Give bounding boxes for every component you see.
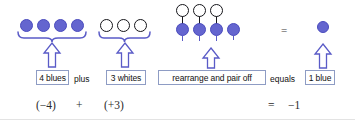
label-box-whites: 3 whites xyxy=(106,70,146,85)
white-counter xyxy=(193,4,206,17)
math-term-result: −1 xyxy=(288,99,300,111)
math-term-whites: (+3) xyxy=(104,99,124,111)
math-plus-symbol: + xyxy=(76,99,83,111)
counter-tail xyxy=(233,35,234,40)
arrow-result xyxy=(312,43,334,69)
math-term-blues: (−4) xyxy=(36,99,56,111)
figure-canvas: 4 blues plus 3 whites xyxy=(0,0,355,126)
white-counter xyxy=(176,4,189,17)
arrow-mixed xyxy=(200,47,222,69)
counter-tail xyxy=(216,35,217,41)
plus-word: plus xyxy=(74,74,90,84)
label-box-rearrange: rearrange and pair off xyxy=(158,70,266,85)
counter-tail xyxy=(199,35,200,41)
counter-tail xyxy=(182,35,183,41)
math-equals-symbol: = xyxy=(268,99,275,111)
arrow-whites xyxy=(114,42,136,68)
equals-word: equals xyxy=(270,74,295,84)
arrow-blues xyxy=(41,42,63,68)
counter-group-mixed xyxy=(176,4,248,44)
white-counter xyxy=(210,4,223,17)
bottom-rule xyxy=(0,119,355,120)
label-box-result: 1 blue xyxy=(305,70,335,85)
equals-symbol-top: = xyxy=(281,24,287,36)
label-box-blues: 4 blues xyxy=(36,70,69,85)
blue-counter-result xyxy=(317,21,329,33)
